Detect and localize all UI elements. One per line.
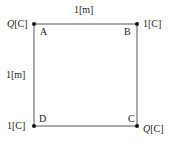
charge-dot-d [32,124,36,128]
charge-unit-b: [C] [148,18,161,29]
top-side-length-label: 1[m] [74,5,93,15]
charge-unit-d: [C] [12,120,25,131]
left-side-length-label: 1[m] [6,70,25,80]
corner-label-b: B [124,27,131,37]
charge-unit-c: [C] [150,123,163,134]
corner-label-d: D [39,114,46,124]
charge-dot-b [135,22,139,26]
charge-label-a: Q[C] [7,19,28,29]
charge-unit-a: [C] [14,18,27,29]
charge-dot-c [135,124,139,128]
corner-label-a: A [40,27,47,37]
corner-label-c: C [128,114,135,124]
charge-label-c: Q[C] [143,124,164,134]
charge-label-d: 1[C] [7,121,25,131]
square-outline [34,24,137,126]
charge-dot-a [32,22,36,26]
charge-label-b: 1[C] [143,19,161,29]
